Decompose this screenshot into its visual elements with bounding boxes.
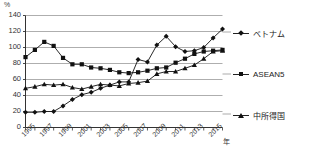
legend-label: ASEAN5: [253, 70, 285, 79]
y-tick-label: 120: [3, 27, 21, 35]
legend-marker-square-icon: [233, 71, 249, 79]
x-axis-unit-label: 年: [223, 136, 230, 146]
y-tick-label: 0: [3, 123, 21, 131]
chart-plot-svg: [0, 0, 313, 164]
legend-label: 中所得国: [253, 110, 285, 121]
legend-item-2[interactable]: ASEAN5: [233, 70, 285, 79]
legend-item-3[interactable]: 中所得国: [233, 110, 285, 121]
legend-item-1[interactable]: ベトナム: [233, 28, 285, 39]
series-square: [23, 40, 224, 75]
y-tick-label: 60: [3, 75, 21, 83]
legend-marker-diamond-icon: [233, 30, 249, 38]
y-tick-label: 140: [3, 11, 21, 19]
chart-container: % 020406080100120140 1995199719992001200…: [0, 0, 313, 164]
series-diamond: [23, 27, 225, 115]
y-tick-label: 40: [3, 91, 21, 99]
y-tick-label: 80: [3, 59, 21, 67]
legend-marker-triangle-icon: [233, 112, 249, 120]
legend-label: ベトナム: [253, 28, 285, 39]
y-tick-label: 20: [3, 107, 21, 115]
y-tick-label: 100: [3, 43, 21, 51]
